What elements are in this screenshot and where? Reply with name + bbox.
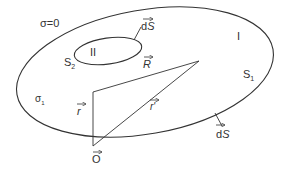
label-ds-inner: dS [141,20,155,32]
diagram-canvas: σ=0 II I S2 S1 σ1 dS R r r' dS O [0,0,287,177]
label-ds-outer: dS [216,128,230,140]
label-region-i: I [237,30,240,42]
ds-outer-normal [215,113,222,126]
label-r-prime: r' [150,101,156,112]
label-s1: S1 [243,68,254,82]
r-prime-vector-line [93,61,199,146]
ds-inner-normal [134,27,141,40]
label-r: r [77,105,82,117]
label-sigma-zero: σ=0 [40,17,59,29]
label-s2: S2 [64,56,75,70]
label-sigma-1: σ1 [35,93,45,106]
label-origin: O [92,153,101,165]
label-region-ii: II [90,46,96,58]
label-R: R [143,58,151,70]
inner-surface-s2 [73,33,144,68]
